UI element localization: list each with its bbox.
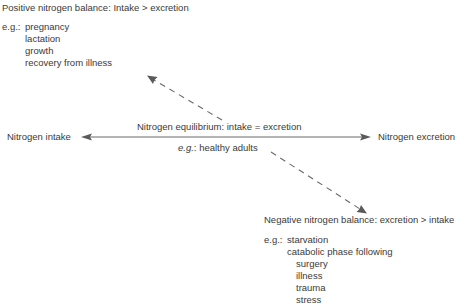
arrowhead-up-left-icon [147, 76, 158, 85]
nitrogen-intake-label: Nitrogen intake [7, 131, 71, 143]
negative-eg-prefix: e.g.: [264, 234, 283, 246]
negative-balance-dashed-arrow [271, 152, 360, 209]
arrows-layer [0, 0, 468, 308]
negative-example-item: starvation [287, 234, 328, 246]
nitrogen-excretion-label: Nitrogen excretion [378, 131, 455, 143]
negative-sub-example-item: surgery [296, 258, 328, 270]
positive-example-item: growth [25, 45, 54, 57]
equilibrium-eg-text: : healthy adults [194, 142, 258, 153]
equilibrium-example: e.g.: healthy adults [178, 142, 258, 154]
positive-eg-prefix: e.g.: [2, 21, 21, 33]
positive-balance-dashed-arrow [154, 80, 222, 120]
arrowhead-down-right-icon [357, 205, 368, 214]
positive-balance-title: Positive nitrogen balance: Intake > excr… [2, 2, 189, 14]
equilibrium-title: Nitrogen equilibrium: intake = excretion [137, 121, 302, 133]
negative-sub-example-item: stress [296, 294, 321, 306]
positive-example-item: pregnancy [25, 21, 69, 33]
positive-example-item: recovery from illness [25, 57, 112, 69]
negative-sub-example-item: illness [296, 270, 322, 282]
negative-example-item: catabolic phase following [287, 246, 393, 258]
negative-balance-title: Negative nitrogen balance: excretion > i… [264, 214, 454, 226]
equilibrium-eg-prefix: e.g. [178, 142, 194, 153]
positive-example-item: lactation [25, 33, 60, 45]
negative-sub-example-item: trauma [296, 282, 326, 294]
